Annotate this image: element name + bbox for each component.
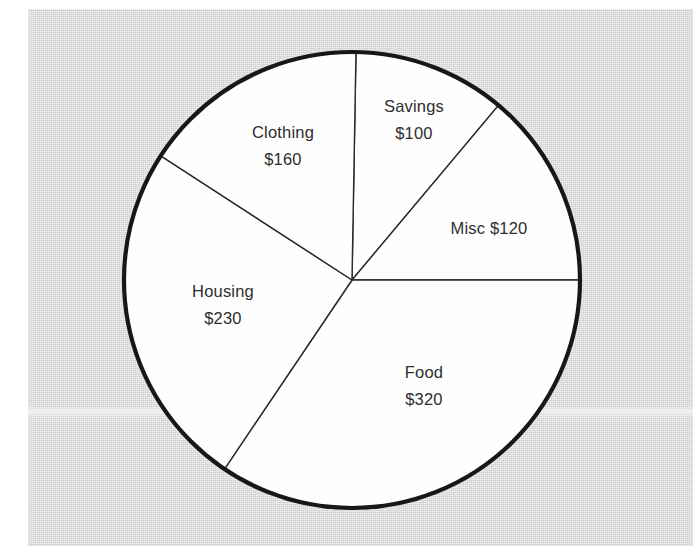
slice-label-name: Housing — [192, 282, 254, 300]
slice-label-name: Food — [405, 363, 443, 381]
pie-slices-group — [124, 52, 580, 508]
slice-label-value: $320 — [405, 390, 443, 408]
slice-label-value: $100 — [395, 124, 433, 142]
pie-chart-page: Savings$100Misc $120Food$320Housing$230C… — [0, 0, 693, 546]
slice-label-value: $230 — [204, 309, 242, 327]
slice-label-name: Savings — [384, 97, 444, 115]
budget-pie-chart: Savings$100Misc $120Food$320Housing$230C… — [0, 0, 693, 546]
slice-label-name: Clothing — [252, 123, 314, 141]
slice-label-value: $160 — [264, 150, 302, 168]
slice-label-misc: Misc $120 — [450, 219, 527, 237]
